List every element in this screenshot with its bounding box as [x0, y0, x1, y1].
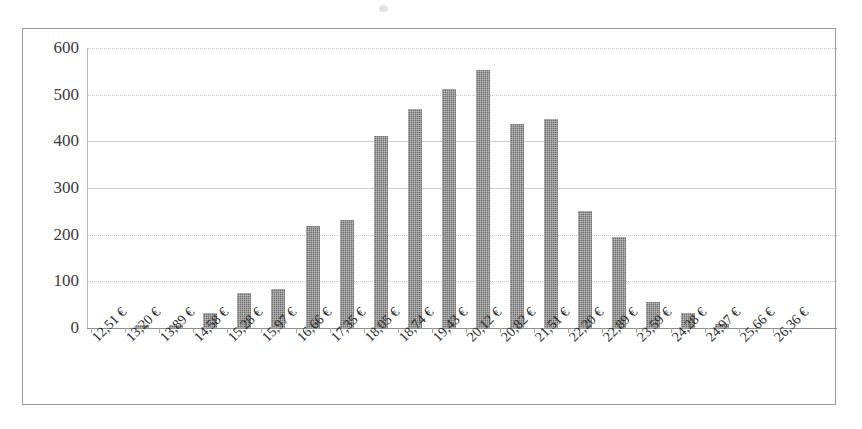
x-axis-tick-mark — [705, 328, 706, 333]
x-axis-tick-mark — [261, 328, 262, 333]
bar-slot — [466, 48, 500, 328]
plot-area — [87, 48, 837, 328]
bar — [510, 124, 524, 328]
x-axis-tick-mark — [466, 328, 467, 333]
x-axis-tick-mark — [568, 328, 569, 333]
bar-slot — [500, 48, 534, 328]
y-axis-tick-label: 100 — [27, 272, 79, 289]
x-axis-tick-mark — [671, 328, 672, 333]
bar-slot — [739, 48, 773, 328]
bar-slot — [636, 48, 670, 328]
y-axis-tick-label: 400 — [27, 132, 79, 149]
bar-slot — [261, 48, 295, 328]
x-axis-tick-mark — [330, 328, 331, 333]
x-axis-tick-mark — [773, 328, 774, 333]
y-axis-tick-label: 0 — [27, 319, 79, 336]
x-axis-tick-mark — [500, 328, 501, 333]
scan-artifact-speck — [379, 5, 388, 12]
y-axis-tick-labels: 6005004003002001000 — [23, 48, 79, 329]
bar-slot — [671, 48, 705, 328]
bar-slot — [193, 48, 227, 328]
bar-slot — [296, 48, 330, 328]
y-axis-tick-label: 200 — [27, 226, 79, 243]
histogram-chart: 6005004003002001000 12,51 €13,20 €13,89 … — [22, 28, 836, 405]
bar — [408, 109, 422, 328]
x-axis-tick-mark — [193, 328, 194, 333]
y-axis-tick-label: 300 — [27, 179, 79, 196]
bar-slot — [568, 48, 602, 328]
y-axis-tick-label: 500 — [27, 86, 79, 103]
bar — [544, 119, 558, 328]
bar-slot — [364, 48, 398, 328]
x-axis-tick-mark — [398, 328, 399, 333]
x-axis-tick-mark — [91, 328, 92, 333]
x-axis-tick-mark — [227, 328, 228, 333]
x-axis-tick-mark — [534, 328, 535, 333]
bar-slot — [91, 48, 125, 328]
x-axis-tick-mark — [296, 328, 297, 333]
bar-slot — [602, 48, 636, 328]
x-axis-tick-labels: 12,51 €13,20 €13,89 €14,58 €15,28 €15,97… — [87, 334, 837, 406]
x-axis-tick-mark — [602, 328, 603, 333]
bar-slot — [534, 48, 568, 328]
bar-slot — [330, 48, 364, 328]
bar-slot — [398, 48, 432, 328]
bar — [374, 136, 388, 328]
bar-slot — [227, 48, 261, 328]
y-axis-tick-label: 600 — [27, 39, 79, 56]
bar-slot — [432, 48, 466, 328]
x-axis-tick-mark — [739, 328, 740, 333]
x-axis-tick-mark — [432, 328, 433, 333]
y-axis-line — [87, 48, 88, 329]
x-axis-tick-mark — [125, 328, 126, 333]
bar-slot — [705, 48, 739, 328]
bar-slot — [125, 48, 159, 328]
bar — [442, 89, 456, 328]
bar-slot — [159, 48, 193, 328]
x-axis-tick-mark — [636, 328, 637, 333]
x-axis-tick-mark — [159, 328, 160, 333]
x-axis-tick-mark — [364, 328, 365, 333]
bar — [476, 70, 490, 328]
bar-slot — [773, 48, 807, 328]
